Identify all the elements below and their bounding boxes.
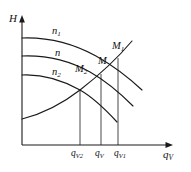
y-axis-arrow-icon [19,15,25,23]
point-label-m: M [98,56,107,67]
point-label-m1-text: M [112,40,121,51]
curve-label-n: n [55,48,60,59]
point-label-m1-subscript: 1 [121,45,125,53]
curve-label-n2-subscript: 2 [57,71,61,79]
tick-label-qv: qV [95,149,104,159]
y-axis-label: H [9,13,17,24]
figure-canvas [0,0,191,172]
curve-label-n-text: n [55,47,60,58]
tick-label-qv1: qV1 [114,149,126,159]
curve-label-n1: n1 [52,26,61,37]
x-axis-label-subscript: V [169,153,174,162]
point-label-m2-text: M [75,63,84,74]
point-label-m1: M1 [112,41,124,52]
x-axis-label-text: q [163,148,169,160]
point-label-m-text: M [98,55,107,66]
tick-label-qv2: qV2 [71,149,83,159]
curve-label-n1-subscript: 1 [57,30,61,38]
tick-label-qv1-subscript: V1 [119,152,126,159]
curve-system-resistance [22,41,132,119]
tick-label-qv2-subscript: V2 [76,152,83,159]
y-axis-label-text: H [9,12,17,24]
curve-label-n2: n2 [52,67,61,78]
x-axis-label: qV [163,149,173,160]
point-label-m2: M2 [75,64,87,75]
point-label-m2-subscript: 2 [84,68,88,76]
pump-characteristic-figure: H qV n1 n n2 M2 M M1 qV2 qV qV1 [0,0,191,172]
tick-label-qv-subscript: V [100,152,104,159]
